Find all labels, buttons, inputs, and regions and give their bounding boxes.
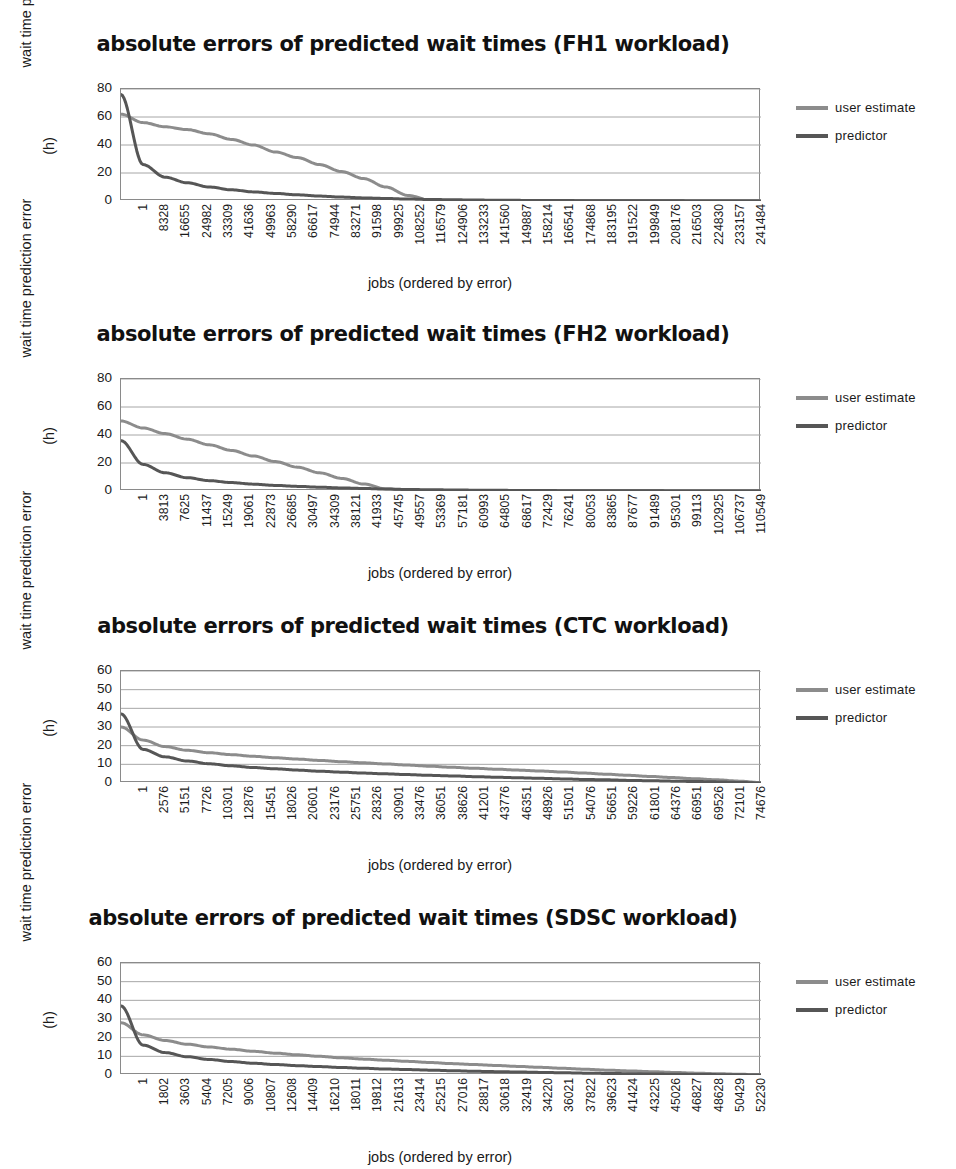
x-tick-label: 208176 <box>669 204 683 245</box>
x-tick-label: 38121 <box>349 494 363 528</box>
x-tick-label: 1 <box>136 494 150 501</box>
y-tick-label: 20 <box>97 165 112 179</box>
y-tick-label: 0 <box>104 193 112 207</box>
x-tick-label: 30497 <box>306 494 320 528</box>
x-tick-label: 216503 <box>690 204 704 245</box>
x-tick-label: 74944 <box>328 204 342 238</box>
legend-item-user-estimate: user estimate <box>796 682 916 697</box>
x-tick-label: 46827 <box>690 1078 704 1112</box>
x-tick-label: 54076 <box>584 786 598 820</box>
legend-label: user estimate <box>835 682 916 697</box>
x-tick-label: 19812 <box>370 1078 384 1112</box>
y-axis-unit: (h) <box>41 137 57 155</box>
chart-fh2: absolute errors of predicted wait times … <box>0 308 956 598</box>
x-tick-label: 1 <box>136 1078 150 1085</box>
x-tick-label: 57181 <box>456 494 470 528</box>
x-tick-label: 66951 <box>690 786 704 820</box>
legend-line-icon <box>796 688 828 692</box>
x-tick-label: 158214 <box>541 204 555 245</box>
legend-label: predictor <box>835 1002 887 1017</box>
x-tick-label: 36021 <box>562 1078 576 1112</box>
x-tick-label: 36051 <box>434 786 448 820</box>
x-tick-label: 33309 <box>221 204 235 238</box>
y-tick-label: 60 <box>97 955 112 969</box>
x-tick-label: 41424 <box>626 1078 640 1112</box>
series-line <box>121 714 761 783</box>
x-axis-title: jobs (ordered by error) <box>120 565 760 581</box>
x-tick-label: 23414 <box>413 1078 427 1112</box>
x-tick-label: 199849 <box>648 204 662 245</box>
x-tick-label: 7205 <box>221 1078 235 1105</box>
x-tick-label: 1 <box>136 204 150 211</box>
legend-item-predictor: predictor <box>796 128 887 143</box>
legend-label: predictor <box>835 128 887 143</box>
x-tick-label: 69526 <box>712 786 726 820</box>
y-tick-label: 60 <box>97 663 112 677</box>
x-tick-label: 183195 <box>605 204 619 245</box>
y-tick-label: 0 <box>104 1067 112 1081</box>
x-tick-labels: 1257651517726103011287615451180262060123… <box>120 786 760 856</box>
x-tick-labels: 1381376251143715249190612287326685304973… <box>120 494 760 564</box>
x-tick-label: 34220 <box>541 1078 555 1112</box>
x-tick-label: 12876 <box>242 786 256 820</box>
legend-line-icon <box>796 134 828 138</box>
chart-ctc: absolute errors of predicted wait times … <box>0 600 956 890</box>
x-axis-title: jobs (ordered by error) <box>120 1149 760 1165</box>
x-tick-label: 61801 <box>648 786 662 820</box>
chart-title: absolute errors of predicted wait times … <box>0 32 956 56</box>
x-tick-label: 116579 <box>434 204 448 244</box>
x-tick-label: 43225 <box>648 1078 662 1112</box>
x-tick-label: 72101 <box>733 786 747 820</box>
x-tick-label: 27016 <box>456 1078 470 1112</box>
x-tick-label: 39623 <box>605 1078 619 1112</box>
x-tick-label: 108252 <box>413 204 427 245</box>
x-tick-label: 83271 <box>349 204 363 238</box>
x-tick-label: 141560 <box>498 204 512 245</box>
x-axis-title: jobs (ordered by error) <box>120 857 760 873</box>
x-tick-label: 74676 <box>754 786 768 820</box>
x-tick-label: 32419 <box>520 1078 534 1112</box>
x-tick-label: 8328 <box>157 204 171 231</box>
y-tick-labels: 0102030405060 <box>74 670 112 782</box>
y-tick-label: 0 <box>104 483 112 497</box>
x-tick-label: 45745 <box>392 494 406 528</box>
x-tick-label: 37822 <box>584 1078 598 1112</box>
y-tick-label: 80 <box>97 371 112 385</box>
plot-area <box>120 670 760 782</box>
x-tick-label: 3603 <box>178 1078 192 1105</box>
legend-line-icon <box>796 424 828 428</box>
y-tick-label: 80 <box>97 81 112 95</box>
x-tick-label: 28326 <box>370 786 384 820</box>
y-tick-labels: 0102030405060 <box>74 962 112 1074</box>
x-tick-label: 38626 <box>456 786 470 820</box>
x-tick-label: 34309 <box>328 494 342 528</box>
series-line <box>121 1006 761 1075</box>
x-tick-label: 102925 <box>712 494 726 535</box>
legend-item-predictor: predictor <box>796 418 887 433</box>
x-tick-label: 10807 <box>264 1078 278 1112</box>
x-tick-label: 30901 <box>392 786 406 820</box>
legend-label: predictor <box>835 710 887 725</box>
x-tick-label: 51501 <box>562 786 576 820</box>
legend-item-user-estimate: user estimate <box>796 974 916 989</box>
series-line <box>121 1023 761 1075</box>
x-tick-label: 15451 <box>264 786 278 820</box>
legend-line-icon <box>796 396 828 400</box>
x-tick-label: 1 <box>136 786 150 793</box>
x-tick-label: 41636 <box>242 204 256 238</box>
x-tick-labels: 1832816655249823330941636499635829066617… <box>120 204 760 274</box>
x-tick-label: 24982 <box>200 204 214 238</box>
x-tick-label: 52230 <box>754 1078 768 1112</box>
legend-line-icon <box>796 980 828 984</box>
x-tick-label: 22873 <box>264 494 278 528</box>
y-tick-labels: 020406080 <box>74 88 112 200</box>
x-tick-label: 124906 <box>456 204 470 245</box>
x-tick-label: 49963 <box>264 204 278 238</box>
legend-label: user estimate <box>835 974 916 989</box>
x-tick-label: 21613 <box>392 1078 406 1112</box>
x-tick-label: 58290 <box>285 204 299 238</box>
legend-line-icon <box>796 1008 828 1012</box>
x-tick-label: 224830 <box>712 204 726 245</box>
chart-fh1: absolute errors of predicted wait times … <box>0 18 956 308</box>
x-axis-title: jobs (ordered by error) <box>120 275 760 291</box>
